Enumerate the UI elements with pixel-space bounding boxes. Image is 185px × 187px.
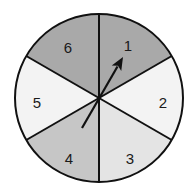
spinner-diagram: 123456 bbox=[0, 0, 185, 187]
sector-label-3: 3 bbox=[126, 150, 134, 167]
sector-label-1: 1 bbox=[124, 37, 132, 54]
sector-label-2: 2 bbox=[159, 94, 167, 111]
sector-label-6: 6 bbox=[64, 39, 72, 56]
sector-label-5: 5 bbox=[33, 94, 41, 111]
sector-label-4: 4 bbox=[65, 150, 73, 167]
